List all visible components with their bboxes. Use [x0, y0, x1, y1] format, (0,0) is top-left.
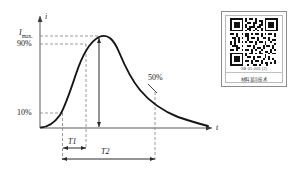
fifty-percent-label: 50% [148, 74, 163, 82]
t1-label: T1 [68, 138, 76, 146]
x-axis-label: t [216, 124, 218, 132]
qr-code-icon[interactable] [229, 18, 279, 66]
fifty-percent-leader-line [148, 84, 157, 93]
qr-caption-top: GB 01-005 (2) [241, 67, 268, 71]
y-axis-label: i [45, 13, 47, 21]
ninety-percent-label: 90% [17, 40, 32, 48]
imax-subscript: max. [22, 33, 33, 39]
qr-caption-bottom: 材料显示技术 [241, 76, 267, 82]
t2-label: T2 [101, 148, 109, 156]
pulse-waveform-figure: i t Imax. 90% 10% 50% T1 T2 [0, 0, 293, 174]
ten-percent-label: 10% [17, 109, 32, 117]
pulse-curve [41, 36, 208, 128]
qr-card-inner: GB 01-005 (2) 材料显示技术 [225, 15, 283, 83]
qr-code-card[interactable]: GB 01-005 (2) 材料显示技术 [221, 11, 287, 87]
imax-label: Imax. [19, 29, 33, 39]
qr-card-divider [226, 72, 282, 73]
